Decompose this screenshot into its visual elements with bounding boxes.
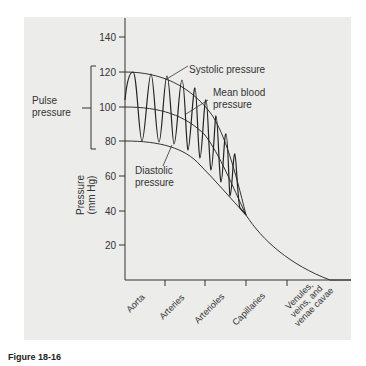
y-tick-labels: 140 120 100 80 60 40 20 xyxy=(99,32,116,251)
cat-capillaries: Capillaries xyxy=(230,290,267,327)
svg-text:Pressure: Pressure xyxy=(75,175,86,215)
diastolic-curve xyxy=(125,141,351,280)
callout-labels: Systolic pressure Mean blood pressure Di… xyxy=(135,64,266,188)
diastolic-label-1: Diastolic xyxy=(135,165,173,176)
svg-text:Pulse: Pulse xyxy=(32,95,57,106)
svg-text:pressure: pressure xyxy=(32,107,71,118)
y-tick-140: 140 xyxy=(99,32,116,43)
x-ticks xyxy=(165,280,287,286)
pressure-chart: 140 120 100 80 60 40 20 Pressure (mm Hg)… xyxy=(0,0,366,366)
y-axis-title: Pressure (mm Hg) xyxy=(75,175,97,215)
figure-caption: Figure 18-16 xyxy=(8,352,61,362)
diastolic-label-2: pressure xyxy=(135,177,174,188)
cat-arteries: Arteries xyxy=(157,292,186,321)
cat-aorta: Aorta xyxy=(124,292,146,314)
systolic-label: Systolic pressure xyxy=(189,64,266,75)
cat-arterioles: Arterioles xyxy=(192,291,226,325)
x-category-labels: Aorta Arteries Arterioles Capillaries Ve… xyxy=(124,280,335,328)
y-tick-60: 60 xyxy=(105,171,117,182)
y-tick-100: 100 xyxy=(99,102,116,113)
y-tick-120: 120 xyxy=(99,67,116,78)
y-ticks xyxy=(119,37,125,245)
y-tick-40: 40 xyxy=(105,206,117,217)
pulse-pressure-label: Pulse pressure xyxy=(32,95,71,118)
y-tick-20: 20 xyxy=(105,240,117,251)
svg-text:(mm Hg): (mm Hg) xyxy=(86,176,97,215)
mean-label-1: Mean blood xyxy=(213,87,265,98)
mean-label-2: pressure xyxy=(213,99,252,110)
y-tick-80: 80 xyxy=(105,136,117,147)
pulse-pressure-bracket xyxy=(82,66,96,149)
